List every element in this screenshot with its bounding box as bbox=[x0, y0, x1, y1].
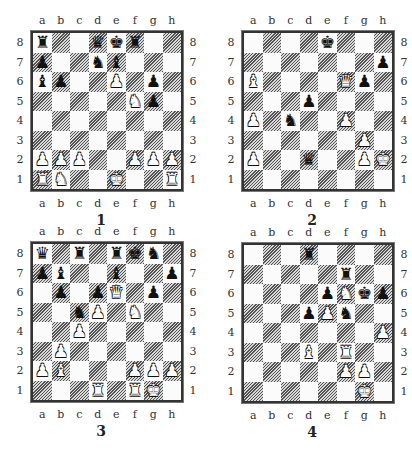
rank-label-left: 5 bbox=[226, 92, 236, 112]
square-e5 bbox=[107, 303, 126, 323]
file-label-bottom: c bbox=[70, 197, 89, 210]
rank-label-left: 1 bbox=[15, 381, 25, 401]
rank-label-left: 8 bbox=[226, 33, 236, 53]
square-a3 bbox=[33, 342, 52, 362]
square-b1 bbox=[52, 381, 71, 401]
white-pawn-icon: ♟ bbox=[337, 111, 356, 131]
white-pawn-icon: ♟ bbox=[70, 150, 89, 170]
square-f6 bbox=[126, 72, 145, 92]
rank-label-right: 2 bbox=[188, 150, 198, 170]
square-b8 bbox=[263, 33, 282, 53]
diagram-3: aabbccddeeffgghh8877665544332211♛♜♜♚♞♟♝♝… bbox=[0, 211, 202, 436]
file-label-top: e bbox=[107, 225, 126, 238]
square-a6: ♝ bbox=[33, 72, 52, 92]
square-e1: ♚ bbox=[107, 170, 126, 190]
square-e3 bbox=[107, 342, 126, 362]
file-label-bottom: b bbox=[52, 408, 71, 421]
square-f2: ♟ bbox=[337, 362, 356, 382]
square-g3 bbox=[144, 131, 163, 151]
rank-label-right: 4 bbox=[399, 111, 409, 131]
square-c2 bbox=[70, 361, 89, 381]
file-label-top: f bbox=[337, 14, 356, 27]
square-e3 bbox=[318, 131, 337, 151]
square-g3: ♟ bbox=[355, 131, 374, 151]
rank-label-left: 2 bbox=[15, 150, 25, 170]
black-bishop-icon: ♝ bbox=[52, 264, 71, 284]
square-a7: ♟ bbox=[33, 53, 52, 73]
square-g4 bbox=[355, 323, 374, 343]
file-label-bottom: e bbox=[107, 408, 126, 421]
file-label-top: a bbox=[33, 14, 52, 27]
square-g6: ♚ bbox=[355, 284, 374, 304]
square-f6 bbox=[126, 283, 145, 303]
white-pawn-icon: ♟ bbox=[355, 362, 374, 382]
rank-label-left: 2 bbox=[15, 361, 25, 381]
file-label-bottom: d bbox=[300, 409, 319, 422]
square-a1: ♜ bbox=[33, 170, 52, 190]
black-pawn-icon: ♟ bbox=[144, 72, 163, 92]
square-c2 bbox=[281, 362, 300, 382]
square-b5 bbox=[52, 303, 71, 323]
rank-label-right: 6 bbox=[188, 283, 198, 303]
square-b3 bbox=[263, 131, 282, 151]
square-f1 bbox=[337, 170, 356, 190]
square-h1 bbox=[163, 381, 182, 401]
chess-board: ♜♛♚♜♟♞♝♝♟♟♟♞♟♟♟♟♟♟♟♜♞♚♜ bbox=[31, 31, 183, 191]
square-f1: ♜ bbox=[126, 381, 145, 401]
square-h3 bbox=[163, 342, 182, 362]
square-b5 bbox=[263, 304, 282, 324]
square-b5 bbox=[52, 92, 71, 112]
rank-label-right: 8 bbox=[188, 244, 198, 264]
square-g6: ♟ bbox=[355, 72, 374, 92]
square-e1 bbox=[107, 381, 126, 401]
file-label-bottom: g bbox=[355, 197, 374, 210]
square-f4 bbox=[126, 111, 145, 131]
chess-board: ♚♟♝♛♟♟♟♞♟♟♟♛♟♚ bbox=[242, 31, 394, 191]
black-king-icon: ♚ bbox=[355, 284, 374, 304]
file-label-bottom: a bbox=[244, 197, 263, 210]
white-pawn-icon: ♟ bbox=[337, 362, 356, 382]
diagram-4: aabbccddeeffgghh8877665544332211♜♜♟♞♚♟♟♟… bbox=[211, 212, 412, 437]
square-f2: ♟ bbox=[126, 150, 145, 170]
square-h5 bbox=[374, 92, 393, 112]
square-d2: ♛ bbox=[300, 150, 319, 170]
square-g5 bbox=[355, 304, 374, 324]
square-e6: ♟ bbox=[318, 284, 337, 304]
square-a3 bbox=[33, 131, 52, 151]
rank-label-left: 5 bbox=[15, 92, 25, 112]
square-g4 bbox=[355, 111, 374, 131]
rank-label-right: 8 bbox=[399, 245, 409, 265]
file-label-bottom: f bbox=[337, 197, 356, 210]
file-label-bottom: e bbox=[318, 197, 337, 210]
white-knight-icon: ♞ bbox=[126, 303, 145, 323]
black-pawn-icon: ♟ bbox=[163, 264, 182, 284]
square-d7 bbox=[300, 265, 319, 285]
white-pawn-icon: ♟ bbox=[52, 342, 71, 362]
file-label-top: e bbox=[318, 226, 337, 239]
rank-label-left: 5 bbox=[226, 304, 236, 324]
square-g7 bbox=[355, 53, 374, 73]
square-d3 bbox=[89, 131, 108, 151]
square-d8 bbox=[300, 33, 319, 53]
white-pawn-icon: ♟ bbox=[244, 111, 263, 131]
square-d1 bbox=[300, 382, 319, 402]
white-pawn-icon: ♟ bbox=[33, 361, 52, 381]
square-c5 bbox=[281, 304, 300, 324]
square-c1 bbox=[281, 382, 300, 402]
square-f7 bbox=[126, 264, 145, 284]
square-d8: ♜ bbox=[300, 245, 319, 265]
black-bishop-icon: ♝ bbox=[33, 72, 52, 92]
square-g1 bbox=[144, 170, 163, 190]
rank-label-right: 7 bbox=[399, 265, 409, 285]
square-a1 bbox=[33, 381, 52, 401]
white-rook-icon: ♜ bbox=[89, 381, 108, 401]
square-e4 bbox=[318, 111, 337, 131]
file-label-top: a bbox=[33, 225, 52, 238]
square-e8 bbox=[318, 245, 337, 265]
square-d3: ♝ bbox=[300, 343, 319, 363]
chess-board: ♛♜♜♚♞♟♝♝♟♟♟♛♟♞♟♞♟♟♟♝♟♟♟♜♜♚ bbox=[31, 242, 183, 402]
file-label-top: f bbox=[126, 14, 145, 27]
square-e7: ♝ bbox=[107, 53, 126, 73]
square-c5 bbox=[70, 92, 89, 112]
white-pawn-icon: ♟ bbox=[107, 72, 126, 92]
